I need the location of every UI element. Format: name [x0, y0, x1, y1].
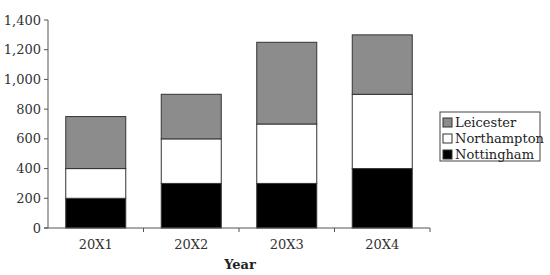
x-axis: 20X120X220X320X4 [44, 228, 430, 252]
bar-20X4 [352, 35, 412, 228]
stacked-bar-chart: 02004006008001,0001,2001,400 20X120X220X… [0, 0, 550, 275]
legend-label: Northampton [455, 131, 544, 146]
bar-segment-nottingham [257, 183, 317, 228]
legend-swatch [443, 150, 452, 159]
legend-item-northampton: Northampton [443, 131, 544, 146]
y-tick-label: 1,200 [4, 42, 41, 57]
legend-item-leicester: Leicester [443, 115, 517, 130]
legend-swatch [443, 118, 452, 127]
bar-segment-leicester [352, 35, 412, 94]
y-tick-label: 200 [16, 191, 41, 206]
bar-segment-northampton [257, 124, 317, 183]
bar-segment-nottingham [66, 198, 126, 228]
bar-segment-northampton [161, 139, 221, 184]
y-tick-label: 800 [16, 102, 41, 117]
x-tick-label: 20X3 [270, 237, 304, 252]
bar-segment-leicester [66, 117, 126, 169]
bar-segment-northampton [66, 169, 126, 199]
bar-segment-nottingham [161, 183, 221, 228]
bar-20X1 [66, 117, 126, 228]
x-axis-title: Year [223, 257, 256, 272]
x-tick-label: 20X2 [174, 237, 208, 252]
bar-segment-leicester [257, 42, 317, 124]
legend-label: Nottingham [455, 147, 534, 162]
legend-item-nottingham: Nottingham [443, 147, 534, 162]
legend: LeicesterNorthamptonNottingham [440, 112, 544, 162]
bar-segment-northampton [352, 94, 412, 168]
y-axis: 02004006008001,0001,2001,400 [4, 13, 48, 236]
bar-20X3 [257, 42, 317, 228]
y-tick-label: 1,400 [4, 13, 41, 28]
y-tick-label: 1,000 [4, 72, 41, 87]
x-tick-label: 20X1 [79, 237, 113, 252]
bar-segment-nottingham [352, 169, 412, 228]
y-tick-label: 0 [33, 221, 41, 236]
bar-20X2 [161, 94, 221, 228]
y-tick-label: 600 [16, 131, 41, 146]
legend-swatch [443, 134, 452, 143]
x-tick-label: 20X4 [365, 237, 399, 252]
y-tick-label: 400 [16, 161, 41, 176]
bar-segment-leicester [161, 94, 221, 139]
legend-label: Leicester [455, 115, 517, 130]
bars [66, 35, 413, 228]
